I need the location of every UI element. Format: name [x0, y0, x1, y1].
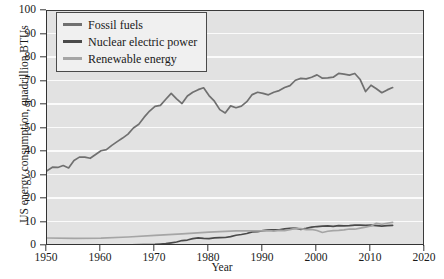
legend-item: Nuclear electric power	[63, 33, 197, 50]
legend-label: Fossil fuels	[88, 19, 143, 31]
legend: Fossil fuelsNuclear electric powerRenewa…	[56, 12, 207, 72]
series-line	[47, 222, 393, 238]
legend-item: Renewable energy	[63, 50, 197, 67]
legend-line-icon	[63, 23, 82, 25]
legend-label: Renewable energy	[88, 53, 177, 65]
plot-border-top	[46, 10, 424, 11]
series-line	[47, 73, 393, 170]
plot-border-right	[423, 10, 424, 246]
legend-line-icon	[63, 40, 82, 42]
series-line	[47, 225, 393, 245]
y-axis-title: US energy consumption, quadrillion BTUs	[18, 4, 30, 244]
x-axis-title: Year	[0, 261, 444, 273]
legend-line-icon	[63, 57, 82, 59]
legend-item: Fossil fuels	[63, 16, 197, 33]
energy-consumption-line-chart: 0102030405060708090100 US energy consump…	[0, 0, 444, 279]
legend-label: Nuclear electric power	[88, 36, 197, 48]
